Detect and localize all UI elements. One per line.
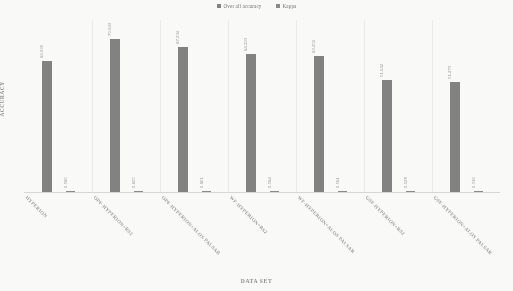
bar-group: 51.9420.128 [364,20,432,192]
legend-swatch-kappa [276,4,280,8]
bar-accuracy[interactable]: 67.234 [178,47,188,192]
legend-label-kappa: Kappa [283,3,297,9]
category-label: WF-HYPERION+ALOS PALSAR [296,195,355,254]
y-axis-title: ACCURACY [0,81,5,116]
bar-accuracy[interactable]: 60.999 [42,61,52,192]
bar-group: 60.9990.565 [24,20,92,192]
bar-group: 67.2340.601 [160,20,228,192]
bar-group: 70.9430.655 [92,20,160,192]
bar-group: 64.2930.564 [228,20,296,192]
bar-value-label: 0.564 [267,177,272,188]
bar-value-label: 0.565 [63,177,68,188]
bar-value-label: 64.293 [243,38,248,51]
bar-value-label: 63.251 [311,40,316,53]
bar-value-label: 67.234 [175,31,180,44]
category-label: WF-HYPERION+RS2 [228,195,268,235]
bar-group: 51.2730.310 [432,20,500,192]
x-axis-title: DATA SET [0,278,513,284]
bar-rect [246,54,256,192]
bar-value-label: 0.655 [131,177,136,188]
bar-value-label: 60.999 [39,45,44,58]
category-label: HYPERION [24,195,48,219]
bar-group: 63.2510.561 [296,20,364,192]
bar-value-label: 51.273 [447,66,452,79]
bar-accuracy[interactable]: 64.293 [246,54,256,192]
bar-value-label: 0.561 [335,177,340,188]
bar-accuracy[interactable]: 70.943 [110,39,120,192]
legend-entry-accuracy: Over all accuracy [217,3,262,9]
bar-value-label: 0.601 [199,177,204,188]
category-label: OPF-HYPERION+RS2 [92,195,134,237]
bar-rect [382,80,392,192]
chart-legend: Over all accuracy Kappa [0,3,513,9]
bar-rect [450,82,460,192]
category-label: GSF-HYPERION+ALOS PALSAR [432,195,493,256]
bar-accuracy[interactable]: 51.273 [450,82,460,192]
bar-value-label: 0.310 [471,177,476,188]
bar-accuracy[interactable]: 51.942 [382,80,392,192]
legend-swatch-accuracy [217,4,221,8]
legend-entry-kappa: Kappa [276,3,297,9]
bar-value-label: 0.128 [403,177,408,188]
bar-value-label: 51.942 [379,64,384,77]
bar-rect [178,47,188,192]
bar-value-label: 70.943 [107,23,112,36]
category-label: OPF-HYPERION+ALOS PALSAR [160,195,221,256]
bar-rect [314,56,324,192]
x-axis-baseline [24,192,500,193]
bar-rect [42,61,52,192]
legend-label-accuracy: Over all accuracy [224,3,262,9]
bar-rect [110,39,120,192]
category-label: GSF-HYPERION+RS2 [364,195,405,236]
chart-figure: Over all accuracy Kappa ACCURACY 60.9990… [0,0,513,291]
plot-area: 60.9990.56570.9430.65567.2340.60164.2930… [24,20,500,192]
bar-accuracy[interactable]: 63.251 [314,56,324,192]
